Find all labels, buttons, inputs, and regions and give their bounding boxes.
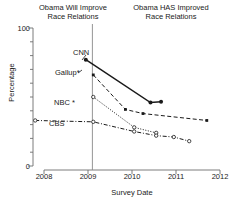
leader-line-gallup [78, 70, 82, 73]
data-point [205, 119, 208, 122]
data-point [155, 134, 158, 137]
data-point [92, 120, 95, 123]
chart-figure: Obama Will Improve Race Relations Obama … [0, 0, 249, 206]
data-point [133, 130, 136, 133]
series-gallup [92, 74, 208, 122]
data-point [148, 101, 152, 105]
data-point [34, 119, 37, 122]
data-point [92, 95, 95, 98]
series-cbs [34, 119, 191, 143]
series-line [35, 120, 189, 141]
series-line [93, 97, 156, 133]
series-cnn [84, 58, 163, 105]
data-point [188, 139, 191, 142]
label-leader-lines [78, 55, 86, 73]
axis-layer [28, 24, 220, 174]
data-point [84, 58, 88, 62]
data-point [142, 112, 145, 115]
series-layer [34, 58, 209, 143]
series-line [93, 75, 207, 121]
data-point [172, 135, 175, 138]
y-tick-marks [28, 28, 33, 166]
plot-area [0, 0, 249, 206]
series-line [86, 60, 161, 103]
data-point [124, 108, 127, 111]
data-point [159, 100, 163, 104]
data-point [92, 74, 95, 77]
data-point [133, 126, 136, 129]
x-tick-marks [44, 170, 220, 174]
